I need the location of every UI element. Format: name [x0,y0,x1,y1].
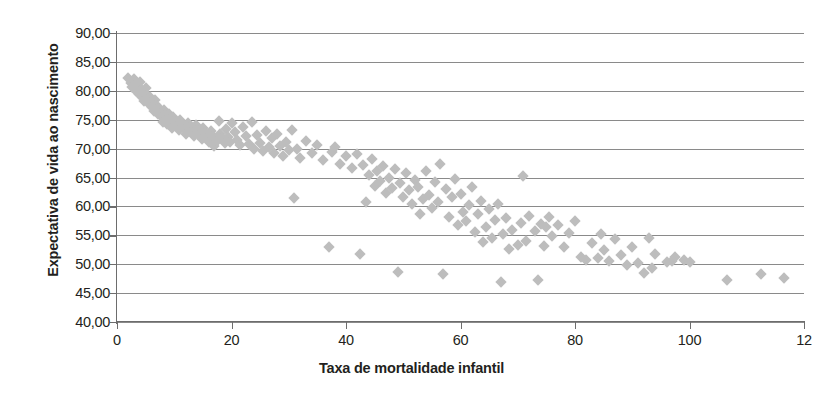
data-point [317,154,328,165]
x-tick-label: 80 [567,332,583,348]
y-tick-label: 90,00 [38,25,110,41]
y-tick-label: 80,00 [38,83,110,99]
y-tick-label: 40,00 [38,314,110,330]
data-point [569,216,580,227]
x-tick-mark [346,322,347,329]
x-tick-mark [117,322,118,329]
data-point [644,232,655,243]
data-point [286,124,297,135]
right-clip-mask [805,0,823,330]
data-point [292,143,303,154]
data-point [721,274,732,285]
data-point [475,195,486,206]
data-point [501,212,512,223]
data-point [366,153,377,164]
data-point [532,275,543,286]
x-tick-label: 20 [224,332,240,348]
data-point [546,231,557,242]
data-point [627,241,638,252]
data-point [300,135,311,146]
gridline [117,149,804,150]
gridline [117,91,804,92]
data-point [435,158,446,169]
gridline [117,62,804,63]
x-tick-mark [461,322,462,329]
data-point [552,219,563,230]
data-point [289,192,300,203]
y-tick-label: 85,00 [38,54,110,70]
scatter-chart: Expectativa de vida ao nascimento 40,004… [0,0,823,393]
data-point [778,272,789,283]
x-tick-label: 60 [453,332,469,348]
data-point [415,209,426,220]
y-tick-label: 45,00 [38,285,110,301]
y-tick-label: 55,00 [38,227,110,243]
gridline [117,264,804,265]
data-point [466,181,477,192]
y-tick-label: 75,00 [38,112,110,128]
data-point [481,222,492,233]
data-point [495,276,506,287]
gridline [117,33,804,34]
data-point [564,227,575,238]
plot-area [117,33,804,322]
data-point [558,241,569,252]
data-point [323,241,334,252]
data-point [406,198,417,209]
data-point [518,170,529,181]
data-point [489,215,500,226]
x-axis-title: Taxa de mortalidade infantil [0,360,823,376]
data-point [538,240,549,251]
data-point [392,266,403,277]
gridline [117,293,804,294]
y-tick-label: 60,00 [38,198,110,214]
data-point [615,249,626,260]
data-point [358,159,369,170]
y-tick-label: 65,00 [38,170,110,186]
x-tick-label: 0 [113,332,121,348]
data-point [621,260,632,271]
gridline [117,235,804,236]
x-tick-label: 40 [338,332,354,348]
data-point [632,257,643,268]
y-axis-tick-labels: 40,0045,0050,0055,0060,0065,0070,0075,00… [34,0,110,393]
data-point [438,268,449,279]
data-point [346,163,357,174]
data-point [352,149,363,160]
x-tick-label: 100 [678,332,701,348]
x-tick-label: 12 [796,332,812,348]
data-point [472,209,483,220]
data-point [649,248,660,259]
data-point [587,238,598,249]
x-tick-mark [575,322,576,329]
x-tick-mark [232,322,233,329]
data-point [355,248,366,259]
data-point [755,268,766,279]
y-tick-label: 70,00 [38,141,110,157]
data-point [449,173,460,184]
data-point [515,217,526,228]
data-point [443,211,454,222]
y-tick-label: 50,00 [38,256,110,272]
data-point [595,228,606,239]
data-point [420,165,431,176]
data-point [524,210,535,221]
x-tick-mark [690,322,691,329]
